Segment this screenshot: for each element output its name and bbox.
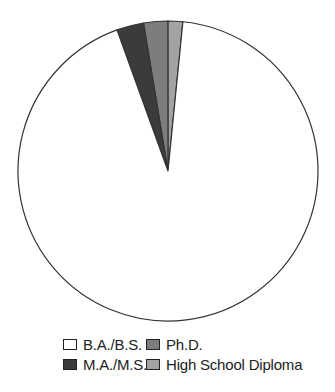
legend-swatch-phd: [146, 339, 160, 350]
legend-label: B.A./B.S.: [83, 336, 142, 353]
legend-swatch-high-school: [146, 359, 160, 370]
legend-label: M.A./M.S.: [83, 356, 147, 373]
legend-swatch-ma-ms: [63, 359, 77, 370]
chart-legend: B.A./B.S. Ph.D. M.A./M.S. High School Di…: [63, 335, 323, 379]
legend-label: High School Diploma: [166, 356, 302, 373]
legend-item-phd: Ph.D.: [146, 335, 203, 353]
legend-item-ma-ms: M.A./M.S.: [63, 355, 147, 373]
legend-item-ba-bs: B.A./B.S.: [63, 335, 142, 353]
legend-item-high-school: High School Diploma: [146, 355, 302, 373]
legend-swatch-ba-bs: [63, 339, 77, 350]
pie-chart: [0, 0, 335, 330]
legend-label: Ph.D.: [166, 336, 203, 353]
